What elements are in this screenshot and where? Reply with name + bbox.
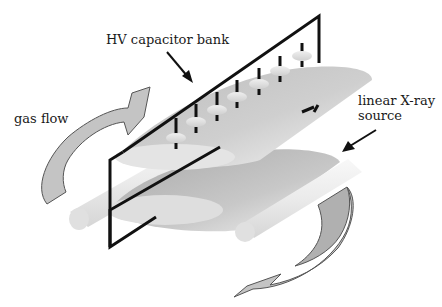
xray-source-label-line1: linear X-ray: [358, 93, 435, 108]
gas-flow-label: gas flow: [14, 111, 69, 126]
electrode-top: [115, 67, 372, 171]
capacitor: [292, 43, 312, 67]
xray-source-label-line2: source: [358, 108, 435, 123]
hv-pointer-arrow: [167, 52, 193, 83]
hv-capacitor-bank-label: HV capacitor bank: [106, 32, 229, 47]
diagram-canvas: HV capacitor bank gas flow linear X-ray …: [0, 0, 442, 307]
xray-pointer-arrow: [342, 130, 376, 152]
xray-source-label: linear X-ray source: [358, 93, 435, 123]
